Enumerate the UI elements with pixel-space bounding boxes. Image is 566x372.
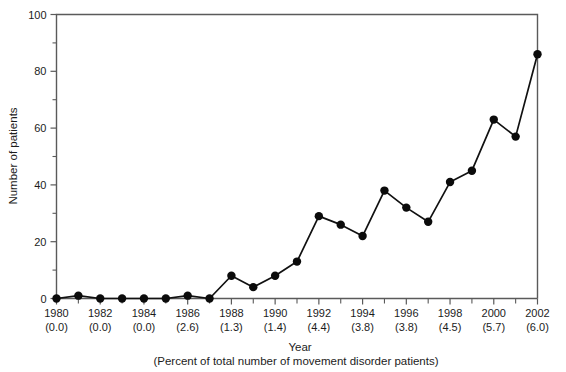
y-tick-label: 0 (40, 293, 46, 305)
x-tick-label-percent: (0.0) (133, 321, 156, 333)
data-point (402, 203, 410, 211)
x-axis-subtitle: (Percent of total number of movement dis… (153, 355, 438, 367)
x-tick-label-year: 2000 (482, 307, 506, 319)
data-point (118, 294, 126, 302)
x-tick-label-year: 2002 (525, 307, 549, 319)
data-point (468, 167, 476, 175)
x-tick-label-percent: (2.6) (176, 321, 199, 333)
data-point (162, 294, 170, 302)
y-axis-tick-labels: 020406080100 (28, 9, 46, 305)
data-point (446, 178, 454, 186)
x-axis-title: Year (288, 341, 311, 353)
data-point (293, 257, 301, 265)
x-tick-label-percent: (4.4) (308, 321, 331, 333)
data-points (52, 50, 541, 303)
x-tick-label-year: 1992 (307, 307, 331, 319)
chart-axes (57, 15, 538, 299)
y-axis-ticks (51, 15, 57, 299)
data-point (337, 220, 345, 228)
data-point (249, 283, 257, 291)
x-tick-label-percent: (4.5) (439, 321, 462, 333)
x-tick-label-year: 1980 (44, 307, 68, 319)
data-point (533, 50, 541, 58)
y-tick-label: 100 (28, 9, 46, 21)
data-point (140, 294, 148, 302)
chart-page: 020406080100 1980(0.0)1982(0.0)1984(0.0)… (0, 0, 566, 372)
x-tick-label-year: 1994 (350, 307, 374, 319)
data-point (227, 272, 235, 280)
data-point (96, 294, 104, 302)
line-chart: 020406080100 1980(0.0)1982(0.0)1984(0.0)… (0, 0, 566, 372)
y-axis-title: Number of patients (7, 107, 19, 204)
x-tick-label-percent: (1.3) (220, 321, 243, 333)
y-tick-label: 20 (34, 236, 46, 248)
data-point (315, 212, 323, 220)
data-point (511, 132, 519, 140)
data-point (271, 272, 279, 280)
data-point (205, 294, 213, 302)
data-point (183, 291, 191, 299)
data-point (74, 291, 82, 299)
data-point (52, 294, 60, 302)
data-point (380, 186, 388, 194)
x-tick-label-percent: (0.0) (45, 321, 68, 333)
x-tick-label-percent: (6.0) (526, 321, 549, 333)
data-point (490, 115, 498, 123)
x-tick-label-year: 1990 (263, 307, 287, 319)
data-point (358, 232, 366, 240)
x-tick-label-year: 1986 (175, 307, 199, 319)
x-tick-label-percent: (3.8) (395, 321, 418, 333)
x-tick-label-year: 1984 (132, 307, 156, 319)
x-tick-label-year: 1998 (438, 307, 462, 319)
plot-frame (57, 15, 538, 299)
x-tick-label-year: 1982 (88, 307, 112, 319)
x-axis-tick-labels: 1980(0.0)1982(0.0)1984(0.0)1986(2.6)1988… (44, 307, 549, 333)
x-tick-label-percent: (1.4) (264, 321, 287, 333)
x-tick-label-percent: (0.0) (89, 321, 112, 333)
y-tick-label: 60 (34, 122, 46, 134)
y-tick-label: 40 (34, 179, 46, 191)
x-axis-ticks (57, 299, 538, 305)
y-tick-label: 80 (34, 65, 46, 77)
x-tick-label-year: 1996 (394, 307, 418, 319)
x-tick-label-percent: (5.7) (482, 321, 505, 333)
x-tick-label-year: 1988 (219, 307, 243, 319)
x-tick-label-percent: (3.8) (351, 321, 374, 333)
data-point (424, 218, 432, 226)
